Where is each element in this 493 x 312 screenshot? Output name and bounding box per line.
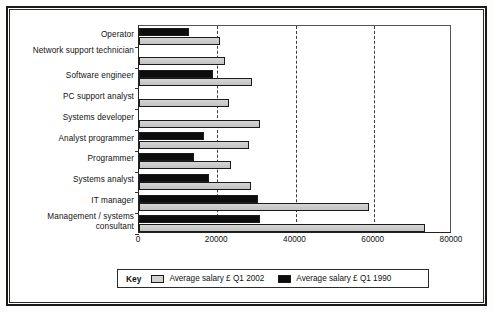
category-label-3: PC support analyst: [14, 92, 134, 102]
category-tick: [135, 192, 139, 193]
category-tick: [135, 88, 139, 89]
category-tick: [135, 130, 139, 131]
category-tick: [135, 151, 139, 152]
bar-2002-1: [139, 57, 225, 65]
x-tick-label-80000: 80000: [440, 235, 463, 244]
category-tick: [135, 47, 139, 48]
legend-swatch-2002: [151, 275, 164, 283]
legend-entry-2002: Average salary £ Q1 2002: [151, 274, 264, 283]
plot-area: [138, 25, 451, 233]
legend-swatch-1990: [278, 275, 291, 283]
x-tick-label-60000: 60000: [361, 235, 384, 244]
gridline-60000: [374, 26, 375, 232]
value-axis-labels: 020000400006000080000: [138, 235, 451, 249]
legend-key-label: Key: [126, 274, 141, 284]
x-tick-label-40000: 40000: [283, 235, 306, 244]
category-tick: [135, 68, 139, 69]
gridline-40000: [296, 26, 297, 232]
bar-1990-0: [139, 28, 189, 36]
legend-entry-1990: Average salary £ Q1 1990: [278, 274, 391, 283]
category-label-4: Systems developer: [14, 113, 134, 123]
category-label-1: Network support technician: [14, 46, 134, 56]
bar-1990-7: [139, 174, 209, 182]
bar-2002-0: [139, 37, 220, 45]
category-tick: [135, 213, 139, 214]
chart-figure: OperatorNetwork support technicianSoftwa…: [0, 0, 493, 312]
legend-label-1990: Average salary £ Q1 1990: [296, 274, 391, 283]
category-label-5: Analyst programmer: [14, 134, 134, 144]
bar-1990-2: [139, 70, 213, 78]
category-tick: [135, 109, 139, 110]
category-label-7: Systems analyst: [14, 175, 134, 185]
bar-2002-2: [139, 78, 252, 86]
legend-label-2002: Average salary £ Q1 2002: [169, 274, 264, 283]
bar-1990-6: [139, 153, 194, 161]
bar-1990-8: [139, 195, 258, 203]
bar-2002-6: [139, 161, 231, 169]
category-label-2: Software engineer: [14, 71, 134, 81]
category-label-9: Management / systems consultant: [14, 212, 134, 231]
category-tick: [135, 172, 139, 173]
bar-1990-5: [139, 132, 204, 140]
chart-legend: Key Average salary £ Q1 2002 Average sal…: [117, 269, 429, 288]
category-axis-labels: OperatorNetwork support technicianSoftwa…: [14, 25, 134, 233]
bar-2002-4: [139, 120, 260, 128]
bar-2002-3: [139, 99, 229, 107]
bar-2002-7: [139, 182, 251, 190]
bar-2002-8: [139, 203, 369, 211]
bar-1990-9: [139, 215, 260, 223]
category-label-6: Programmer: [14, 154, 134, 164]
category-label-0: Operator: [14, 30, 134, 40]
bar-2002-5: [139, 141, 249, 149]
category-label-8: IT manager: [14, 196, 134, 206]
bar-2002-9: [139, 224, 425, 232]
x-tick-label-0: 0: [136, 235, 141, 244]
x-tick-label-20000: 20000: [205, 235, 228, 244]
